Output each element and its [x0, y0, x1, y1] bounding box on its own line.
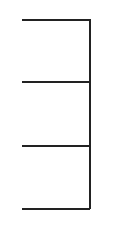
branch-line — [22, 19, 90, 21]
bracket-tree-diagram — [0, 0, 117, 226]
branch-line — [22, 81, 90, 83]
branch-line — [22, 145, 90, 147]
trunk-line — [89, 19, 91, 209]
branch-line — [22, 208, 90, 210]
